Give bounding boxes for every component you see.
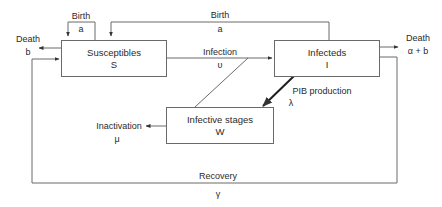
infection-param: υ bbox=[195, 60, 245, 70]
birth-self-label: Birth bbox=[68, 11, 94, 21]
infecteds-node: Infecteds I bbox=[274, 40, 380, 77]
pib-production-label: PIB production bbox=[282, 86, 362, 96]
infective-stages-title: Infective stages bbox=[187, 114, 253, 126]
death-infected-label: Death bbox=[399, 33, 437, 43]
birth-from-infected-label: Birth bbox=[200, 10, 240, 20]
recovery-param: γ bbox=[208, 189, 228, 199]
inactivation-label: Inactivation bbox=[93, 121, 145, 131]
death-susceptible-param: b bbox=[12, 47, 44, 57]
infective-stages-node: Infective stages W bbox=[166, 107, 274, 144]
birth-from-infected-param: a bbox=[200, 24, 240, 34]
infecteds-title: Infecteds bbox=[308, 47, 347, 59]
susceptibles-title: Susceptibles bbox=[87, 47, 141, 59]
death-infected-param: α + b bbox=[399, 46, 437, 56]
pib-production-param: λ bbox=[282, 98, 300, 108]
infection-label: Infection bbox=[195, 47, 245, 57]
birth-self-param: a bbox=[68, 24, 94, 34]
inactivation-param: μ bbox=[108, 134, 126, 144]
death-susceptible-label: Death bbox=[12, 34, 44, 44]
susceptibles-symbol: S bbox=[111, 59, 117, 71]
susceptibles-node: Susceptibles S bbox=[61, 40, 167, 77]
recovery-label: Recovery bbox=[194, 171, 242, 181]
infecteds-symbol: I bbox=[326, 59, 329, 71]
infective-stages-symbol: W bbox=[216, 126, 225, 138]
